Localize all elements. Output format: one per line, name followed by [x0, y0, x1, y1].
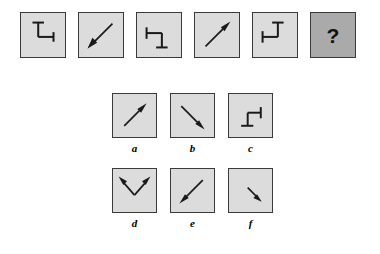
figural-reasoning-puzzle: ? a: [0, 0, 380, 254]
option-panel-f[interactable]: [228, 168, 273, 213]
bracket-cap-left-arm-down-icon: [137, 13, 181, 57]
option-letter-f: f: [228, 218, 273, 229]
option-panel-e[interactable]: [170, 168, 215, 213]
arrow-diagonal-down-left-icon: [79, 13, 123, 57]
stem-panel-question[interactable]: ?: [310, 12, 356, 58]
option-panel-d[interactable]: [112, 168, 157, 213]
option-letter-b: b: [170, 143, 215, 154]
stem-panel-3: [136, 12, 182, 58]
option-letter-e: e: [170, 218, 215, 229]
arrow-diagonal-down-right-icon: [171, 94, 214, 137]
arrow-diagonal-up-right-icon: [113, 94, 156, 137]
question-mark-label: ?: [311, 13, 355, 57]
arrow-diagonal-down-left-icon: [171, 169, 214, 212]
bracket-cap-left-arm-up-icon: [253, 13, 297, 57]
option-letter-d: d: [112, 218, 157, 229]
option-panel-a[interactable]: [112, 93, 157, 138]
arrow-diagonal-up-right-icon: [195, 13, 239, 57]
bracket-cap-right-arm-down-icon: [229, 94, 272, 137]
option-panel-b[interactable]: [170, 93, 215, 138]
option-letter-a: a: [112, 143, 157, 154]
stem-panel-1: [20, 12, 66, 58]
option-panel-c[interactable]: [228, 93, 273, 138]
option-letter-c: c: [228, 143, 273, 154]
double-headed-v-arrow-up-icon: [113, 169, 156, 212]
stem-panel-4: [194, 12, 240, 58]
arrow-short-diagonal-down-right-icon: [229, 169, 272, 212]
stem-panel-2: [78, 12, 124, 58]
stem-panel-5: [252, 12, 298, 58]
bracket-cap-top-left-arm-right-icon: [21, 13, 65, 57]
